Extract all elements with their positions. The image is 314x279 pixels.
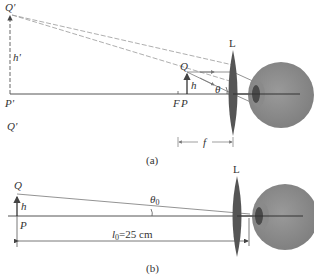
label-q-b: Q [14,179,22,191]
caption-a: (a) [146,154,159,167]
label-q-prime-top: Q' [5,1,16,13]
label-theta0: θ0 [150,193,159,207]
magnifier-diagram: Q' h' P' Q' Q h F P θ L f (a) [0,0,314,279]
label-f-point: F [172,97,180,109]
caption-b: (b) [146,262,159,275]
lens-a [229,50,238,136]
eye-b [252,184,314,250]
label-p-point: P [180,97,188,109]
label-q: Q [180,60,188,72]
label-h: h [191,79,197,91]
label-distance-l0: l0=25 cm [112,228,153,242]
label-focal-length: f [203,136,208,148]
label-lens-b: L [233,163,240,175]
label-p-prime: P' [4,97,15,109]
ray-center-arrow [200,78,214,85]
eye-a [248,62,314,128]
label-theta: θ [215,83,221,95]
label-q-prime-bottom: Q' [7,120,18,132]
figure-b: Q h P θ0 L l0=25 cm (b) [8,163,314,275]
figure-a: Q' h' P' Q' Q h F P θ L f (a) [4,1,314,167]
dashed-ray-1 [12,15,233,65]
label-lens-a: L [229,37,236,49]
label-h-prime: h' [13,51,22,63]
label-h-b: h [21,200,27,212]
theta0-arc [151,209,152,216]
ray-b [17,194,250,214]
label-p-b: P [19,219,27,231]
